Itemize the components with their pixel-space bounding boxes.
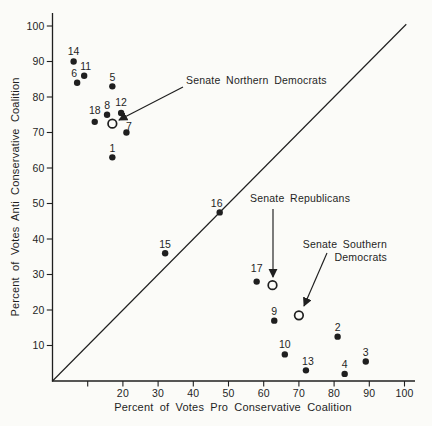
- y-tick-label: 70: [32, 126, 44, 138]
- data-point-3: [363, 358, 369, 364]
- data-point-4: [341, 371, 347, 377]
- x-tick-label: 80: [328, 387, 340, 399]
- annotation-label-senate-northern-democrats: Senate Northern Democrats: [186, 74, 327, 86]
- y-tick-label: 30: [32, 268, 44, 280]
- data-point-label-14: 14: [68, 45, 80, 57]
- annotation-arrow-senate-northern-democrats: [119, 87, 183, 120]
- data-point-2: [334, 333, 340, 339]
- y-tick-label: 90: [32, 55, 44, 67]
- data-point-label-12: 12: [115, 96, 127, 108]
- data-point-8: [104, 112, 110, 118]
- data-point-label-5: 5: [109, 71, 115, 83]
- data-point-label-1: 1: [109, 142, 115, 154]
- y-axis-title: Percent of Votes Anti Conservative Coali…: [9, 77, 21, 316]
- data-point-6: [74, 80, 80, 86]
- data-point-label-11: 11: [80, 60, 91, 72]
- data-point-14: [70, 58, 76, 64]
- x-tick-label: 40: [187, 387, 199, 399]
- y-tick-label: 50: [32, 197, 44, 209]
- annotation-label-senate-southern-democrats: Senate Southern: [303, 238, 387, 250]
- annotation-label-senate-southern-democrats: Democrats: [334, 251, 387, 263]
- data-point-18: [92, 119, 98, 125]
- y-tick-label: 60: [32, 162, 44, 174]
- data-point-label-3: 3: [363, 346, 369, 358]
- data-point-5: [109, 83, 115, 89]
- data-point-16: [217, 209, 223, 215]
- x-tick-label: 100: [395, 387, 413, 399]
- annotation-arrow-senate-southern-democrats: [304, 253, 327, 306]
- data-point-label-15: 15: [159, 238, 171, 250]
- data-point-10: [282, 351, 288, 357]
- data-point-13: [303, 367, 309, 373]
- data-point-label-2: 2: [335, 321, 341, 333]
- data-point-17: [253, 278, 259, 284]
- data-point-label-9: 9: [271, 305, 277, 317]
- y-tick-label: 100: [26, 20, 44, 32]
- y-tick-label: 40: [32, 233, 44, 245]
- data-point-label-16: 16: [211, 197, 223, 209]
- x-tick-label: 60: [258, 387, 270, 399]
- annotation-label-senate-republicans: Senate Republicans: [250, 192, 350, 204]
- scatter-plot: 2030405060708090100102030405060708090100…: [0, 0, 432, 426]
- data-point-label-8: 8: [104, 99, 110, 111]
- data-point-label-13: 13: [302, 355, 314, 367]
- x-tick-label: 30: [152, 387, 164, 399]
- y-tick-label: 20: [32, 304, 44, 316]
- group-mean-marker-senate-republicans: [268, 281, 277, 290]
- group-mean-marker-senate-southern-democrats: [295, 311, 304, 320]
- x-tick-label: 90: [363, 387, 375, 399]
- y-tick-label: 80: [32, 91, 44, 103]
- data-point-label-18: 18: [89, 104, 101, 116]
- plot-layer: 2030405060708090100102030405060708090100…: [26, 13, 415, 399]
- x-tick-label: 50: [222, 387, 234, 399]
- data-point-label-10: 10: [279, 338, 291, 350]
- data-point-label-4: 4: [342, 358, 348, 370]
- data-point-label-6: 6: [71, 67, 77, 79]
- data-point-1: [109, 154, 115, 160]
- x-axis-title: Percent of Votes Pro Conservative Coalit…: [114, 401, 352, 413]
- data-point-label-17: 17: [251, 262, 263, 274]
- data-point-12: [118, 110, 124, 116]
- x-tick-label: 70: [293, 387, 305, 399]
- data-point-11: [81, 73, 87, 79]
- plot-svg: 2030405060708090100102030405060708090100…: [0, 0, 432, 426]
- group-mean-marker-senate-northern-democrats: [108, 119, 117, 128]
- data-point-15: [162, 250, 168, 256]
- data-point-9: [271, 317, 277, 323]
- data-point-label-7: 7: [126, 120, 132, 132]
- y-tick-label: 10: [32, 339, 44, 351]
- x-tick-label: 20: [117, 387, 129, 399]
